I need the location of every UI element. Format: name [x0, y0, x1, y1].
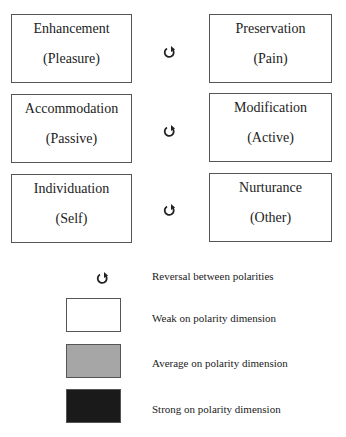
reversal-icon [163, 45, 177, 59]
legend-label-reversal: Reversal between polarities [152, 270, 274, 282]
box-modification: Modification (Active) [209, 93, 332, 162]
box-subtitle: (Pain) [210, 51, 331, 67]
box-enhancement: Enhancement (Pleasure) [11, 14, 132, 83]
reversal-icon [163, 124, 177, 138]
box-accommodation: Accommodation (Passive) [11, 94, 132, 163]
swatch-weak [66, 298, 121, 332]
swatch-average [66, 344, 121, 378]
box-individuation: Individuation (Self) [11, 174, 132, 243]
box-title: Enhancement [12, 21, 131, 37]
swatch-strong [66, 389, 121, 423]
reversal-icon [96, 271, 110, 285]
box-title: Preservation [210, 21, 331, 37]
legend-label-weak: Weak on polarity dimension [152, 312, 276, 324]
box-subtitle: (Passive) [12, 131, 131, 147]
box-preservation: Preservation (Pain) [209, 14, 332, 83]
box-subtitle: (Other) [210, 210, 331, 226]
legend-label-average: Average on polarity dimension [152, 357, 288, 369]
box-nurturance: Nurturance (Other) [209, 173, 332, 242]
box-title: Nurturance [210, 180, 331, 196]
box-title: Modification [210, 100, 331, 116]
legend-label-strong: Strong on polarity dimension [152, 403, 281, 415]
box-subtitle: (Pleasure) [12, 51, 131, 67]
box-subtitle: (Self) [12, 211, 131, 227]
box-title: Individuation [12, 181, 131, 197]
box-title: Accommodation [12, 101, 131, 117]
box-subtitle: (Active) [210, 130, 331, 146]
reversal-icon [163, 203, 177, 217]
